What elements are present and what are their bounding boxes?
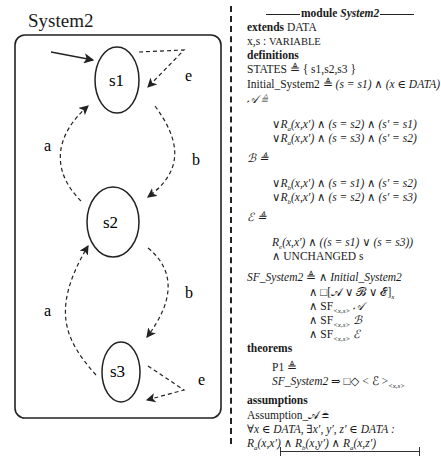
action-a-line-2: ∨Ra(x,x′) ∧ (s = s3) ∧ (s′ = s2) [272, 131, 417, 150]
edge-label-e1: e [185, 67, 192, 84]
action-b-definition: ℬ ≜ [247, 151, 269, 165]
edge-label-a2: a [44, 302, 51, 319]
edge-label-b1: b [192, 151, 200, 168]
action-a-definition: 𝒜 ≜ [247, 92, 267, 106]
transition-s1-s2-b [148, 106, 175, 197]
diagram-canvas: s1 s2 s3 e b a b a e [0, 0, 235, 465]
column-separator [230, 6, 232, 444]
sf-line-5: ∧ SF<x,s> ℰ [309, 327, 360, 346]
theorems-heading: theorems [247, 341, 292, 355]
action-e-definition: ℰ ≜ [247, 210, 267, 224]
action-e-line-2: ∧ UNCHANGED s [272, 249, 363, 263]
state-diagram: System2 s1 s2 s3 e b a b a e [0, 0, 235, 465]
module-end-rule [280, 451, 420, 452]
module-header: module System2 [265, 6, 415, 20]
sf-definition: SF_System2 ≜ ∧ Initial_System2 [247, 270, 402, 284]
edge-label-a1: a [44, 137, 51, 154]
transition-s3-e [147, 366, 184, 400]
theorem-p1-body: SF_System2 ⇒ □◇ < ℰ ><x,s> [272, 374, 405, 393]
states-definition: STATES ≜ { s1,s2,s3 } [247, 62, 356, 76]
state-s2-label: s2 [103, 213, 118, 232]
action-b-line-2: ∨Rb(x,x′) ∧ (s = s2) ∧ (s′ = s3) [272, 190, 417, 209]
transition-s2-s3-b [147, 248, 168, 337]
state-s1-label: s1 [109, 71, 124, 90]
extends-line: extends DATA [247, 20, 317, 34]
initial-definition: Initial_System2 ≜ (s = s1) ∧ (x ∈ DATA) [247, 77, 440, 91]
variables-line: x,s : VARIABLE [247, 34, 321, 49]
theorem-p1: P1 ≜ [272, 360, 297, 374]
initial-transition [51, 52, 93, 60]
assumption-name: Assumption_𝒜 ≜ [247, 408, 329, 422]
assumptions-heading: assumptions [247, 393, 308, 407]
definitions-heading: definitions [247, 48, 299, 62]
assumption-line-2: Ra(x,x′) ∧ Rb(x,y′) ∧ Ra(x,z′) [247, 436, 376, 455]
transition-s1-e [139, 50, 184, 87]
edge-label-e2: e [198, 371, 205, 388]
transition-s3-s2-a [65, 246, 96, 375]
state-s3-label: s3 [110, 362, 125, 381]
edge-label-b2: b [185, 284, 193, 301]
assumption-line-1: ∀x ∈ DATA, ∃x′, y′, z′ ∈ DATA : [247, 422, 395, 436]
transition-s2-s1-a [60, 106, 88, 201]
